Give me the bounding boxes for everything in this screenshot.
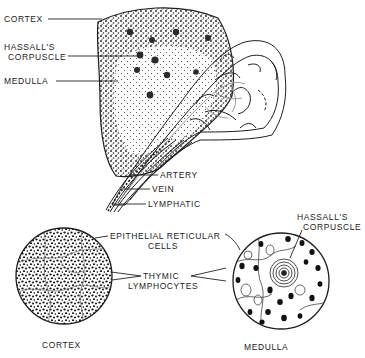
thymus-diagram: CORTEX HASSALL'S CORPUSCLE MEDULLA ARTER… (0, 0, 365, 358)
label-lymphatic: LYMPHATIC (148, 199, 201, 209)
label-hassalls-micro-line2: CORPUSCLE (303, 222, 361, 232)
label-hassalls-line1: HASSALL'S (4, 42, 55, 52)
caption-cortex: CORTEX (42, 340, 81, 350)
label-thymic: THYMIC (143, 271, 179, 281)
label-cells: CELLS (148, 241, 178, 251)
caption-medulla: MEDULLA (244, 342, 288, 352)
label-medulla: MEDULLA (4, 76, 48, 86)
label-epithelial-reticular: EPITHELIAL RETICULAR (110, 231, 220, 241)
label-lymphocytes: LYMPHOCYTES (128, 281, 198, 291)
medulla-micro-view (233, 233, 330, 329)
thymus-lobe (97, 8, 233, 177)
label-vein: VEIN (152, 184, 174, 194)
cortex-micro-view (14, 226, 114, 326)
label-hassalls-line2: CORPUSCLE (8, 52, 66, 62)
label-cortex: CORTEX (4, 14, 43, 24)
label-artery: ARTERY (160, 170, 198, 180)
label-hassalls-micro-line1: HASSALL'S (297, 212, 348, 222)
